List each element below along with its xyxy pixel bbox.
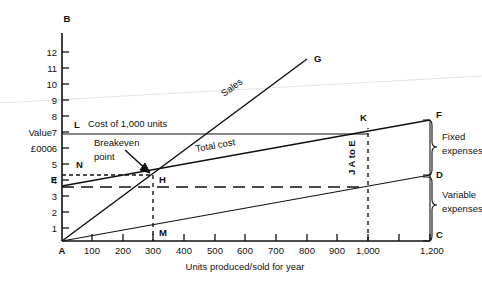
rotated-label-j-a-to-e: J A to E (346, 140, 357, 175)
y-tick-marks (62, 52, 69, 228)
xtick-label-800: 800 (299, 245, 315, 256)
series-label-cost-of-1000-units: Cost of 1,000 units (88, 118, 167, 129)
ytick-label-2: 2 (52, 207, 57, 218)
xtick-label-300: 300 (145, 245, 161, 256)
ytick-label-5: 5 (52, 159, 57, 170)
point-label-K: K (360, 112, 367, 123)
brace-fixed-expenses: Fixed expenses (423, 120, 482, 175)
point-label-H: H (159, 174, 166, 185)
breakeven-annotation-line1: Breakeven (94, 137, 139, 148)
x-tick-marks (92, 234, 430, 241)
point-label-C: C (436, 229, 443, 240)
brace-label-fixed-line2: expenses (442, 145, 482, 156)
ytick-label-3: 3 (52, 191, 57, 202)
xtick-label-600: 600 (237, 245, 253, 256)
xtick-label-100: 100 (84, 245, 100, 256)
x-axis-title: Units produced/sold for year (186, 261, 305, 272)
xtick-label-700: 700 (268, 245, 284, 256)
series-label-sales: Sales (219, 76, 245, 99)
ytick-label-11: 11 (47, 63, 57, 74)
chart-canvas: 12 11 10 9 8 7 6 5 4 3 2 1 Value £000 A … (0, 0, 482, 282)
ytick-label-1: 1 (52, 223, 57, 234)
sales-line (62, 59, 307, 241)
xtick-label-1000: 1,000 (356, 245, 380, 256)
xtick-label-200: 200 (115, 245, 131, 256)
point-label-E: E (51, 174, 57, 185)
point-label-D: D (436, 169, 443, 180)
xtick-label-A: A (59, 245, 66, 256)
breakeven-annotation-line2: point (94, 151, 115, 162)
xtick-label-400: 400 (176, 245, 192, 256)
point-label-B: B (64, 13, 71, 24)
total-cost-line (62, 120, 430, 186)
xtick-label-500: 500 (207, 245, 223, 256)
breakeven-arrow (125, 150, 150, 173)
point-label-G: G (314, 53, 321, 64)
y-axis-title-line1: Value (28, 127, 52, 138)
ytick-label-6: 6 (52, 143, 57, 154)
ytick-label-10: 10 (46, 79, 57, 90)
brace-label-fixed-line1: Fixed (442, 131, 465, 142)
ytick-label-9: 9 (52, 95, 57, 106)
y-axis-title-line2: £000 (31, 143, 52, 154)
xtick-label-900: 900 (329, 245, 345, 256)
brace-label-variable-line1: Variable (442, 189, 476, 200)
brace-variable-expenses: Variable expenses (423, 177, 482, 241)
ytick-label-8: 8 (52, 111, 57, 122)
point-label-N: N (76, 159, 83, 170)
point-label-M: M (159, 227, 167, 238)
xtick-label-1200: 1,200 (420, 245, 444, 256)
point-label-L: L (74, 119, 80, 130)
ytick-label-12: 12 (46, 47, 57, 58)
ytick-label-7: 7 (52, 127, 57, 138)
brace-label-variable-line2: expenses (442, 203, 482, 214)
variable-expenses-line (62, 175, 430, 241)
point-label-F: F (436, 109, 442, 120)
breakeven-chart: 12 11 10 9 8 7 6 5 4 3 2 1 Value £000 A … (0, 0, 482, 282)
